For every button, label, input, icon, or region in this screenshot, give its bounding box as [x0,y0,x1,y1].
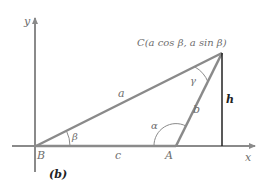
side-a-label: a [118,87,125,100]
triangle-diagram: y x C(a cos β, a sin β) B A a b c h β α … [0,0,266,193]
side-b-label: b [193,103,200,116]
angle-alpha-label: α [151,120,158,131]
point-a-label: A [164,149,173,162]
x-axis-label: x [245,151,252,164]
height-label: h [226,93,234,106]
side-c-label: c [115,149,121,162]
figure-caption: (b) [49,168,67,181]
angle-beta-arc [67,131,71,146]
angle-beta-label: β [71,131,78,142]
side-a [36,53,222,146]
angle-gamma-arc [195,67,208,82]
point-c-label: C(a cos β, a sin β) [137,37,227,48]
angle-gamma-label: γ [190,75,196,86]
point-b-label: B [36,149,45,162]
y-axis-label: y [23,15,31,28]
side-b [176,53,222,146]
